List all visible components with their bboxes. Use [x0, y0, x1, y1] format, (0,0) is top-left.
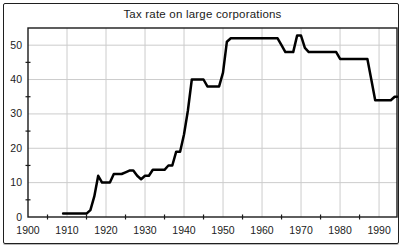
- y-axis-tick-label: 20: [10, 142, 22, 154]
- y-axis-tick-label: 10: [10, 176, 22, 188]
- line-chart: 1900191019201930194019501960197019801990…: [0, 0, 405, 250]
- x-axis-tick-label: 1930: [133, 224, 157, 236]
- x-axis-tick-label: 1920: [94, 224, 118, 236]
- tax-rate-data-line: [63, 36, 397, 214]
- y-axis-tick-label: 50: [10, 39, 22, 51]
- y-axis-tick-label: 0: [16, 211, 22, 223]
- x-axis-tick-label: 1950: [211, 224, 235, 236]
- plot-frame: [28, 28, 397, 217]
- x-axis-tick-label: 1980: [328, 224, 352, 236]
- chart-figure: Tax rate on large corporations 190019101…: [0, 0, 405, 250]
- x-axis-tick-label: 1940: [172, 224, 196, 236]
- y-axis-tick-label: 30: [10, 107, 22, 119]
- x-axis-tick-label: 1990: [367, 224, 391, 236]
- y-axis-tick-label: 40: [10, 73, 22, 85]
- x-axis-tick-label: 1970: [289, 224, 313, 236]
- x-axis-tick-label: 1900: [16, 224, 40, 236]
- x-axis-tick-label: 1910: [55, 224, 79, 236]
- x-axis-tick-label: 1960: [250, 224, 274, 236]
